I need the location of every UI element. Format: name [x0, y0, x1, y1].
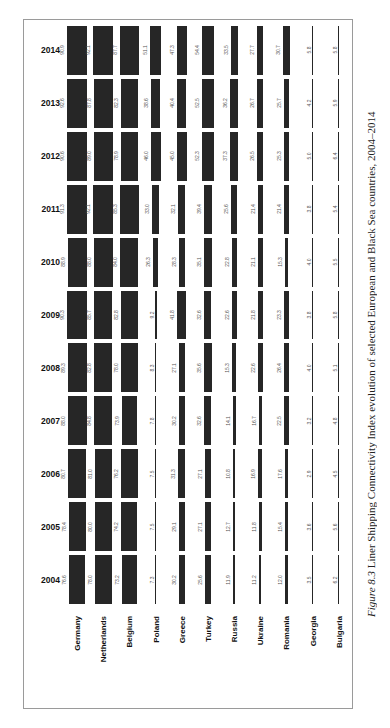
- bar: 2.9: [312, 449, 313, 498]
- bar-cell: 45.0: [169, 132, 195, 181]
- value-label: 91.3: [59, 204, 65, 214]
- bar: 39.4: [204, 185, 212, 234]
- value-label: 88.0: [60, 416, 66, 426]
- value-label: 92.6: [59, 98, 65, 108]
- value-label: 90.9: [59, 46, 65, 56]
- bar-cell: 25.6: [195, 555, 221, 604]
- bar-cell: 26.3: [143, 238, 169, 287]
- bar-cell: 22.6: [221, 291, 247, 340]
- bar-cell: 17.6: [273, 449, 299, 498]
- bar: 78.0: [95, 555, 112, 604]
- bar: 4.5: [338, 449, 339, 498]
- country-label: Ukraine: [247, 612, 273, 700]
- bar-cell: 33.0: [143, 185, 169, 234]
- bar-cell: 21.4: [273, 185, 299, 234]
- value-label: 27.1: [171, 363, 177, 373]
- bar-cell: 3.6: [300, 502, 326, 551]
- value-label: 26.3: [145, 257, 151, 267]
- bar-cell: 9.2: [143, 291, 169, 340]
- value-label: 82.8: [113, 310, 119, 320]
- bar-cell: 14.1: [221, 396, 247, 445]
- bar-cell: 37.3: [221, 132, 247, 181]
- bar: 78.9: [121, 132, 138, 181]
- value-label: 16.9: [251, 469, 257, 479]
- bar-cell: 3.5: [300, 555, 326, 604]
- bar: 88.0: [68, 396, 87, 445]
- bar: 33.0: [152, 185, 159, 234]
- value-label: 30.2: [171, 575, 177, 585]
- bar: 84.8: [94, 396, 112, 445]
- value-label: 89.3: [60, 363, 66, 373]
- year-row: 200990.385.782.89.241.832.622.621.823.33…: [64, 291, 352, 340]
- year-label: 2010: [26, 257, 60, 267]
- bar: 78.4: [69, 502, 86, 551]
- bar: 25.6: [205, 555, 210, 604]
- bar: 26.3: [153, 238, 159, 287]
- year-row: 200476.678.073.27.330.225.611.911.212.03…: [64, 555, 352, 604]
- value-label: 30.7: [275, 46, 281, 56]
- bar-cell: 78.0: [116, 343, 142, 392]
- bar: 4.0: [312, 238, 313, 287]
- value-label: 4.2: [306, 100, 312, 107]
- value-label: 51.1: [142, 46, 148, 56]
- bar-cell: 22.8: [221, 238, 247, 287]
- value-label: 88.0: [86, 257, 92, 267]
- bar: 4.0: [312, 343, 313, 392]
- bar: 4.2: [312, 79, 313, 128]
- value-label: 25.6: [224, 204, 230, 214]
- value-label: 8.3: [148, 364, 154, 371]
- bar: 27.7: [257, 26, 263, 75]
- value-label: 5.8: [332, 312, 338, 319]
- bar-cell: 22.5: [273, 396, 299, 445]
- country-label-text: Turkey: [203, 616, 212, 642]
- bar: 26.5: [257, 132, 263, 181]
- bar-cell: 27.1: [195, 502, 221, 551]
- year-row: 200680.781.076.27.531.327.110.816.917.62…: [64, 449, 352, 498]
- bar: 30.2: [179, 555, 185, 604]
- bar: 85.3: [120, 185, 138, 234]
- value-label: 78.9: [113, 151, 119, 161]
- value-label: 26.5: [250, 151, 256, 161]
- value-label: 21.1: [250, 257, 256, 267]
- value-label: 52.5: [194, 98, 200, 108]
- bar-cell: 27.1: [195, 449, 221, 498]
- year-label: 2008: [26, 363, 60, 373]
- country-label-text: Georgia: [308, 616, 317, 646]
- value-label: 23.3: [276, 310, 282, 320]
- bar: 3.8: [312, 185, 313, 234]
- bar-cell: 85.3: [116, 185, 142, 234]
- value-label: 11.2: [251, 575, 257, 584]
- bar-cell: 16.7: [247, 396, 273, 445]
- bar: 21.4: [258, 185, 263, 234]
- value-label: 84.8: [86, 416, 92, 426]
- bar: 22.8: [232, 238, 237, 287]
- bar: 85.7: [94, 291, 112, 340]
- bar: 27.1: [179, 343, 185, 392]
- value-label: 3.8: [306, 312, 312, 319]
- bar-cell: 30.2: [169, 555, 195, 604]
- country-label: Poland: [143, 612, 169, 700]
- value-label: 21.4: [250, 204, 256, 214]
- value-label: 5.4: [332, 206, 338, 213]
- value-label: 22.6: [250, 363, 256, 373]
- bar: 30.2: [179, 396, 185, 445]
- value-label: 40.4: [170, 98, 176, 108]
- value-label: 4.0: [306, 259, 312, 266]
- bar-cell: 46.0: [143, 132, 169, 181]
- bar: 82.8: [121, 291, 139, 340]
- country-label: Belgium: [116, 612, 142, 700]
- value-label: 78.4: [61, 522, 67, 532]
- bar: 22.6: [232, 291, 237, 340]
- bar: 5.1: [338, 343, 339, 392]
- value-label: 7.8: [148, 417, 154, 424]
- bar: 3.8: [312, 291, 313, 340]
- bar: 5.8: [338, 291, 339, 340]
- bar-cell: 21.4: [247, 185, 273, 234]
- year-label: 2006: [26, 469, 60, 479]
- bar-cell: 3.8: [300, 291, 326, 340]
- value-label: 5.8: [306, 47, 312, 54]
- value-label: 7.3: [148, 576, 154, 583]
- value-label: 52.3: [194, 151, 200, 161]
- bar-cell: 47.3: [169, 26, 195, 75]
- country-label-text: Netherlands: [99, 616, 108, 662]
